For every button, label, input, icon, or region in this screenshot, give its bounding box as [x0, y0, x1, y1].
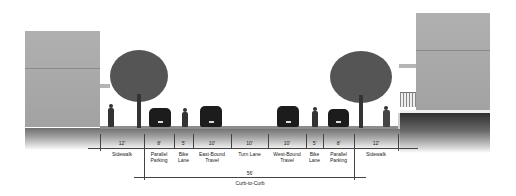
segment-width: 8'	[323, 140, 354, 146]
total-label: Curb-to-Curb	[220, 180, 280, 186]
curb-to-curb-dimension-line	[134, 177, 366, 178]
building-floor-line	[416, 50, 490, 51]
cyclist-left	[182, 108, 188, 127]
right-ground-section	[400, 113, 490, 153]
parked-car-right	[328, 109, 349, 127]
segment-label: West-Bound Travel	[268, 151, 306, 163]
segment-label: Sidewalk	[100, 151, 144, 157]
segment-width: 5'	[174, 140, 193, 146]
right-curb	[398, 113, 400, 129]
ground-section	[25, 128, 403, 150]
segment-width: 12'	[354, 140, 398, 146]
segment-label: Sidewalk	[354, 151, 398, 157]
segment-label: Turn Lane	[231, 151, 268, 157]
person-body	[182, 112, 188, 127]
tick	[398, 134, 399, 151]
segment-width: 10'	[231, 140, 268, 146]
segment-width: 12'	[100, 140, 144, 146]
parked-car-left	[149, 108, 171, 127]
person-body	[108, 108, 114, 127]
left-awning	[100, 84, 110, 88]
segment-dimension-line	[88, 148, 418, 149]
segment-label: Bike Lane	[174, 151, 193, 163]
building-floor-line	[25, 68, 100, 69]
segment-width: 8'	[144, 140, 174, 146]
pedestrian-left	[108, 104, 114, 127]
segment-label: East-Bound Travel	[193, 151, 231, 163]
tree-trunk	[359, 95, 363, 128]
person-body	[383, 110, 390, 127]
total-width: 56'	[230, 170, 270, 176]
right-railing	[400, 92, 416, 107]
cyclist-right	[312, 107, 318, 127]
pedestrian-right	[383, 106, 390, 127]
right-building	[416, 13, 490, 111]
segment-label: Parallel Parking	[144, 151, 174, 163]
segment-label: Parallel Parking	[323, 151, 354, 163]
left-building	[25, 31, 100, 127]
tree-trunk	[137, 94, 141, 128]
westbound-car	[277, 106, 299, 127]
person-body	[312, 111, 318, 127]
right-awning	[399, 64, 416, 68]
segment-width: 5'	[306, 140, 323, 146]
segment-width: 10'	[193, 140, 231, 146]
segment-label: Bike Lane	[306, 151, 323, 163]
eastbound-car	[200, 106, 222, 127]
segment-width: 10'	[268, 140, 306, 146]
